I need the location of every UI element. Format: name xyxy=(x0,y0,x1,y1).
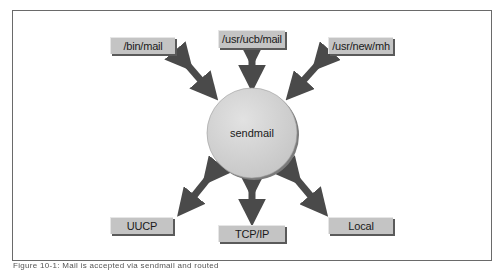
node-bin-mail: /bin/mail xyxy=(110,37,175,54)
node-local: Local xyxy=(328,217,393,234)
arrow-bin-mail xyxy=(185,62,210,91)
node-tcp-ip: TCP/IP xyxy=(218,225,285,242)
arrow-uucp xyxy=(185,176,210,207)
node-usr-ucb-mail: /usr/ucb/mail xyxy=(218,30,285,48)
figure-caption: Figure 10-1: Mail is accepted via sendma… xyxy=(13,261,219,270)
arrow-local xyxy=(294,176,320,207)
node-usr-new-mh: /usr/new/mh xyxy=(328,37,393,54)
node-uucp: UUCP xyxy=(110,217,173,234)
arrow-new-mh xyxy=(294,62,320,91)
sendmail-label: sendmail xyxy=(230,127,274,139)
